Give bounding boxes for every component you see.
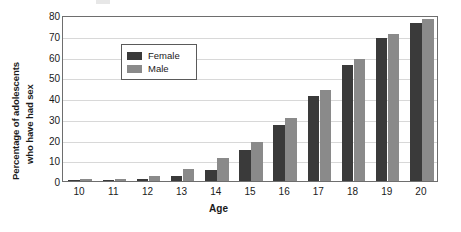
bar-female-17	[308, 96, 320, 181]
bar-male-12	[149, 176, 161, 181]
bar-group	[103, 17, 127, 181]
y-tick-label: 40	[36, 94, 60, 105]
bar-female-11	[103, 180, 115, 181]
legend-label-female: Female	[148, 49, 180, 62]
bar-male-17	[320, 90, 332, 181]
bar-male-13	[183, 169, 195, 181]
bar-female-20	[410, 23, 422, 181]
y-tick-label: 30	[36, 114, 60, 125]
bar-group	[410, 17, 434, 181]
bar-female-13	[171, 176, 183, 181]
bar-male-20	[422, 19, 434, 181]
bar-group	[376, 17, 400, 181]
bar-male-11	[115, 179, 127, 181]
scan-artifact	[96, 0, 110, 4]
y-axis-label-line-1: Percentage of adolescents	[10, 62, 21, 180]
bar-male-18	[354, 59, 366, 181]
x-axis-label: Age	[0, 203, 461, 214]
y-tick-label: 10	[36, 156, 60, 167]
bar-female-12	[137, 179, 149, 181]
y-tick-label: 50	[36, 73, 60, 84]
legend-label-male: Male	[148, 62, 169, 75]
legend: Female Male	[121, 44, 197, 80]
bar-group	[239, 17, 263, 181]
x-axis-label-text: Age	[209, 203, 228, 214]
y-tick-label: 20	[36, 135, 60, 146]
bar-male-14	[217, 158, 229, 181]
bar-male-10	[80, 179, 92, 181]
x-axis-ticks: 1011121314151617181920	[0, 186, 461, 202]
legend-swatch-female-icon	[127, 52, 142, 60]
bar-chart-figure: Percentage of adolescents who have had s…	[0, 0, 461, 232]
bar-female-10	[68, 180, 80, 181]
bar-group	[205, 17, 229, 181]
bar-group	[171, 17, 195, 181]
bar-group	[68, 17, 92, 181]
bar-male-16	[285, 118, 297, 181]
legend-swatch-male-icon	[127, 65, 142, 73]
y-tick-label: 60	[36, 52, 60, 63]
bar-group	[137, 17, 161, 181]
y-tick-label: 70	[36, 31, 60, 42]
plot-area	[62, 16, 438, 182]
bar-male-19	[388, 34, 400, 181]
bar-female-14	[205, 170, 217, 181]
bar-female-19	[376, 38, 388, 181]
x-tick-label: 20	[401, 186, 441, 197]
bar-series-container	[63, 17, 437, 181]
bar-group	[342, 17, 366, 181]
legend-entry-female: Female	[127, 49, 191, 62]
y-tick-label: 80	[36, 11, 60, 22]
bar-female-18	[342, 65, 354, 181]
bar-group	[273, 17, 297, 181]
legend-entry-male: Male	[127, 62, 191, 75]
bar-group	[308, 17, 332, 181]
bar-male-15	[251, 142, 263, 181]
bar-female-15	[239, 150, 251, 181]
bar-female-16	[273, 125, 285, 181]
